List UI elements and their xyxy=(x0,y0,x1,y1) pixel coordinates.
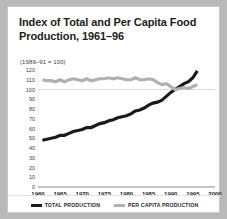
y-axis-tick-label: 20 xyxy=(19,165,35,171)
chart-canvas xyxy=(8,7,221,214)
legend-label-per-capita-production: PER CAPITA PRODUCTION xyxy=(128,202,198,208)
y-axis-tick-label: 40 xyxy=(19,145,35,151)
legend-label-total-production: TOTAL PRODUCTION xyxy=(45,202,100,208)
y-axis-tick-label: 30 xyxy=(19,155,35,161)
series-line-per-capita-production xyxy=(42,78,197,90)
y-axis-tick-label: 100 xyxy=(19,87,35,93)
y-axis-tick-label: 80 xyxy=(19,106,35,112)
y-axis-tick-label: 50 xyxy=(19,135,35,141)
plot-area: 0102030405060708090100110120196019651970… xyxy=(8,7,221,214)
legend-item-per-capita-production: PER CAPITA PRODUCTION xyxy=(114,202,198,208)
y-axis-tick-label: 10 xyxy=(19,174,35,180)
y-axis-tick-label: 120 xyxy=(19,67,35,73)
line-swatch-icon xyxy=(114,204,125,207)
y-axis-tick-label: 70 xyxy=(19,116,35,122)
y-axis-tick-label: 60 xyxy=(19,126,35,132)
y-axis-tick-label: 110 xyxy=(19,77,35,83)
legend-item-total-production: TOTAL PRODUCTION xyxy=(31,202,100,208)
y-axis-tick-label: 90 xyxy=(19,96,35,102)
chart-legend: TOTAL PRODUCTION PER CAPITA PRODUCTION xyxy=(8,195,221,214)
chart-figure: Index of Total and Per Capita Food Produ… xyxy=(7,6,220,213)
line-swatch-icon xyxy=(31,204,42,207)
y-axis-tick-label: 0 xyxy=(19,184,35,190)
